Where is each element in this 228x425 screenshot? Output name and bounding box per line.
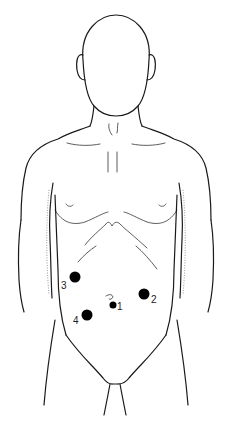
marker-2: 2 <box>139 289 158 306</box>
neck-right <box>138 106 142 126</box>
right-arm-outer <box>208 220 214 312</box>
marker-1: 1 <box>110 301 124 312</box>
torso-left <box>55 195 66 335</box>
left-leg-inner <box>104 384 110 415</box>
inguinal-left <box>66 335 112 384</box>
marker-2-label: 2 <box>151 294 157 305</box>
marker-4-label: 4 <box>73 315 79 326</box>
navel <box>106 295 113 300</box>
torso-right <box>166 195 177 335</box>
right-leg-inner <box>120 384 126 415</box>
left-arm-inner <box>50 183 53 298</box>
marker-4: 4 <box>73 310 93 327</box>
marker-3-label: 3 <box>61 280 67 291</box>
inguinal-right <box>118 335 166 384</box>
marker-1-label: 1 <box>117 301 123 312</box>
marker-3: 3 <box>61 272 81 292</box>
left-arm-outer <box>18 220 24 312</box>
right-leg-outer <box>177 320 188 405</box>
head-outline <box>83 15 150 116</box>
anatomy-diagram: 1 2 3 4 <box>0 0 228 425</box>
left-leg-outer <box>44 320 55 405</box>
neck-left <box>90 106 94 126</box>
right-arm-inner <box>179 183 182 298</box>
